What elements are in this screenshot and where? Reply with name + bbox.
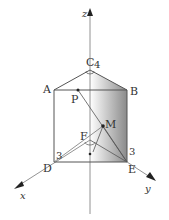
x-axis-label: x bbox=[20, 190, 26, 201]
label-D: D bbox=[43, 162, 52, 175]
y-axis-label: y bbox=[144, 183, 151, 194]
z-axis-label: z bbox=[81, 8, 88, 19]
label-B: B bbox=[130, 85, 138, 98]
x-axis-arrow-icon bbox=[14, 181, 24, 189]
label-A: A bbox=[42, 83, 52, 96]
label-E: E bbox=[128, 163, 136, 176]
label-M: M bbox=[105, 118, 116, 131]
y-axis-arrow-icon bbox=[146, 172, 156, 181]
geometry-diagram: z x y C 4 A B P M F 3 3 D E bbox=[0, 0, 169, 220]
point-origin-dot bbox=[89, 153, 92, 156]
z-axis-arrow-icon bbox=[87, 8, 93, 16]
label-E-length: 3 bbox=[129, 146, 135, 157]
edge-CA bbox=[54, 70, 90, 90]
point-P bbox=[77, 89, 80, 92]
label-P: P bbox=[71, 93, 79, 106]
label-D-length: 3 bbox=[56, 150, 62, 161]
label-F: F bbox=[80, 130, 88, 143]
label-C-height: 4 bbox=[94, 59, 100, 70]
